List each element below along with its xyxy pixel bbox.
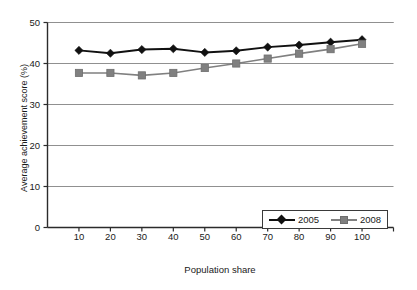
chart-legend: 2005 2008 [262,210,388,229]
legend-item-2005: 2005 [269,215,319,225]
line-chart: Average achievement score (%) Population… [0,0,417,290]
axis-ticks [44,23,394,232]
axis-lines [48,23,394,228]
legend-label-2008: 2008 [359,215,381,225]
legend-marker-square-icon [331,215,357,225]
legend-marker-diamond-icon [269,215,295,225]
series-lines [79,40,362,76]
legend-label-2005: 2005 [297,215,319,225]
legend-item-2008: 2008 [331,215,381,225]
plot-area [0,0,417,290]
